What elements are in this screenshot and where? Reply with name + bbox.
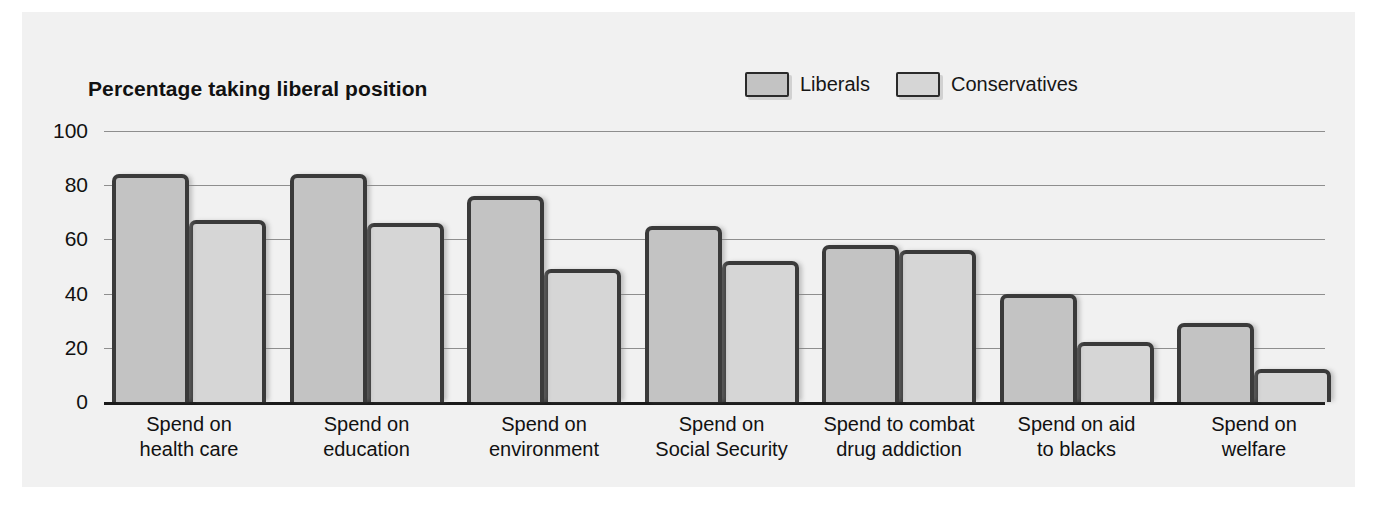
bar-conservatives-6 xyxy=(1077,342,1154,402)
bar-conservatives-7 xyxy=(1254,369,1331,402)
bar-conservatives-5 xyxy=(899,250,976,402)
bar-conservatives-2 xyxy=(367,223,444,402)
bar-conservatives-3 xyxy=(544,269,621,402)
bar-liberals-1 xyxy=(112,174,189,402)
bar-liberals-3 xyxy=(467,196,544,402)
bar-conservatives-1 xyxy=(189,220,266,402)
chart-plot-area: Percentage taking liberal position Liber… xyxy=(0,0,1381,522)
x-axis-label-7: Spend onwelfare xyxy=(1144,412,1364,462)
bar-liberals-5 xyxy=(822,245,899,402)
bar-liberals-7 xyxy=(1177,323,1254,402)
bar-liberals-6 xyxy=(1000,294,1077,402)
bar-conservatives-4 xyxy=(722,261,799,402)
bar-liberals-4 xyxy=(645,226,722,402)
bar-liberals-2 xyxy=(290,174,367,402)
chart-figure: Percentage taking liberal position Liber… xyxy=(0,0,1381,522)
